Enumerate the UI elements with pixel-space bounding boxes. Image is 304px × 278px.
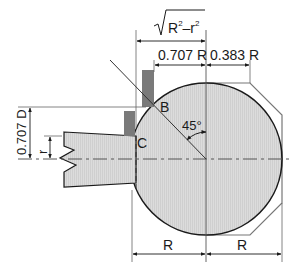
upper-insert-block (142, 70, 154, 107)
dim-R-left-label: R (163, 237, 173, 253)
dim-R-right-label: R (237, 237, 247, 253)
point-C-label: C (137, 135, 147, 151)
point-B-label: B (160, 99, 169, 115)
dim-0383R-label: 0.383 R (210, 47, 259, 63)
dim-r-label: r (35, 149, 50, 154)
angle-label: 45° (182, 118, 202, 133)
lower-insert-block (124, 111, 135, 136)
technical-diagram: R2–r2 0.707 R 0.383 R 0.707 D r B C 45° … (0, 0, 304, 278)
dim-0707R-label: 0.707 R (158, 47, 207, 63)
dim-0707D-label: 0.707 D (14, 109, 29, 155)
sqrt-radicand-label: R2–r2 (168, 19, 200, 36)
